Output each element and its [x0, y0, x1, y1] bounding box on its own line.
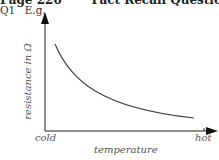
y-axis-label: resistance in Ω — [22, 32, 33, 132]
x-tick-hot: hot — [195, 132, 211, 143]
x-tick-cold: cold — [35, 132, 56, 143]
resistance-curve — [55, 44, 194, 118]
y-axis-arrow-icon — [41, 12, 49, 24]
x-axis-label: temperature — [94, 144, 158, 155]
chart — [0, 0, 219, 160]
